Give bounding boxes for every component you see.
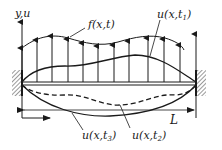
- left-fixed-support: [12, 70, 22, 96]
- deflection-curve-t3: [22, 85, 196, 116]
- deflection-curve-t2: [22, 85, 196, 105]
- load-leader: [70, 28, 85, 37]
- load-label: f(x,t): [87, 18, 115, 31]
- axis-label: y,u: [14, 7, 30, 20]
- beam-diagram: y,u f(x,t) u(x,t1) u(x,t2) u(x,t3) L: [0, 0, 222, 150]
- t3-label: u(x,t3): [82, 129, 116, 143]
- t1-leader: [150, 20, 160, 56]
- t2-label: u(x,t2): [132, 129, 166, 143]
- length-label: L: [169, 113, 178, 127]
- right-fixed-support: [196, 70, 206, 96]
- deflection-curve-t1: [22, 55, 196, 82]
- t2-leader: [120, 105, 130, 128]
- t1-label: u(x,t1): [157, 8, 191, 22]
- t3-leader: [72, 113, 83, 130]
- load-envelope-curve: [22, 36, 184, 50]
